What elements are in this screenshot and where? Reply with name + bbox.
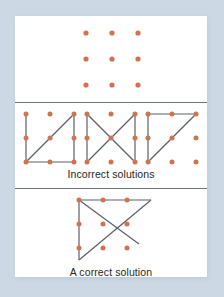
incorrect-solution-1-figure (22, 110, 78, 166)
panel-puzzle-grid (15, 16, 207, 102)
caption-correct-solution: A correct solution (15, 266, 207, 278)
incorrect-solution-2-figure (83, 110, 139, 166)
panel-correct-solution: A correct solution (15, 188, 207, 277)
figure-card: Incorrect solutions (15, 16, 207, 277)
incorrect-solution-3-figure (144, 110, 200, 166)
solution-lines-correct (79, 200, 151, 260)
caption-incorrect-solutions: Incorrect solutions (15, 168, 207, 180)
nine-dot-puzzle-figure: Incorrect solutions (0, 0, 224, 297)
correct-solution-figure (67, 196, 159, 262)
nine-dot-grid-figure (81, 28, 143, 90)
panel-incorrect-solutions: Incorrect solutions (15, 102, 207, 188)
grid-dots (83, 30, 140, 87)
